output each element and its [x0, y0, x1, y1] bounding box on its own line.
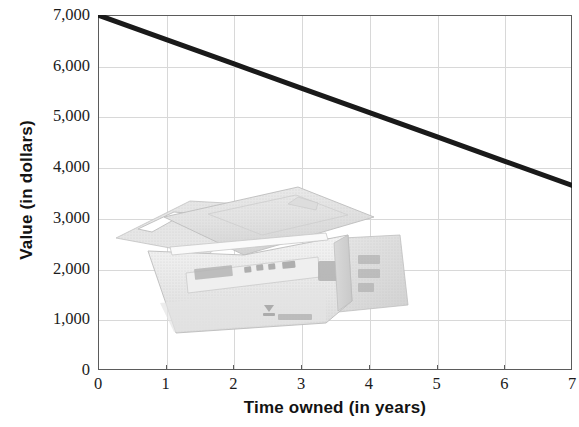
chart-canvas: Value (in dollars) [0, 0, 579, 427]
x-axis-tick-mark [301, 365, 302, 370]
y-axis-tick-label: 1,000 [24, 309, 90, 329]
y-axis-tick-label: 7,000 [24, 5, 90, 25]
gridline-horizontal [99, 168, 571, 169]
x-axis-tick-label: 0 [83, 374, 113, 394]
gridline-vertical [438, 16, 439, 369]
y-axis-tick-label: 3,000 [24, 208, 90, 228]
x-axis-tick-mark [369, 365, 370, 370]
x-axis-tick-label: 7 [557, 374, 579, 394]
x-axis-tick-label: 5 [422, 374, 452, 394]
y-axis-tick-label: 6,000 [24, 56, 90, 76]
x-axis-tick-mark [233, 365, 234, 370]
gridline-horizontal [99, 67, 571, 68]
x-axis-tick-label: 4 [354, 374, 384, 394]
x-axis-tick-label: 3 [286, 374, 316, 394]
y-axis-tick-label: 0 [24, 360, 90, 380]
x-axis-title: Time owned (in years) [98, 398, 572, 418]
x-axis-tick-mark [437, 365, 438, 370]
x-axis-tick-label: 6 [489, 374, 519, 394]
x-axis-tick-label: 2 [218, 374, 248, 394]
x-axis-tick-mark [504, 365, 505, 370]
x-axis-tick-mark [166, 365, 167, 370]
dot-matrix-printer-photo [112, 183, 412, 348]
gridline-vertical [505, 16, 506, 369]
y-axis-tick-label: 5,000 [24, 106, 90, 126]
gridline-horizontal [99, 117, 571, 118]
y-axis-tick-label: 2,000 [24, 259, 90, 279]
x-axis-tick-label: 1 [151, 374, 181, 394]
y-axis-tick-label: 4,000 [24, 157, 90, 177]
